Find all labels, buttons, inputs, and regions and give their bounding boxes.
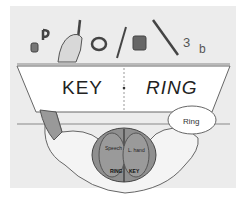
left-hemisphere-function: Speech xyxy=(105,145,122,151)
left-hemisphere-word: RING xyxy=(110,168,123,174)
objects-row: 3 b xyxy=(31,20,206,58)
letter-p-icon xyxy=(43,30,48,40)
screen-right-word: RING xyxy=(146,77,198,99)
right-hemisphere-word: KEY xyxy=(129,168,139,174)
cup-icon xyxy=(31,43,38,52)
left-arm xyxy=(40,110,62,140)
fixation-point xyxy=(123,87,126,90)
fork-icon xyxy=(117,27,126,58)
ring-icon xyxy=(92,38,106,50)
screwdriver-icon xyxy=(153,20,178,55)
right-hemisphere-function: L. hand xyxy=(128,147,145,153)
screen-left-word: KEY xyxy=(62,77,103,99)
split-brain-illustration: 3 b xyxy=(0,0,244,206)
mug-icon xyxy=(133,36,146,50)
speech-bubble-text: Ring xyxy=(183,117,199,126)
left-hand-icon xyxy=(58,34,82,62)
number-3-icon: 3 xyxy=(183,35,190,50)
letter-b-icon: b xyxy=(199,42,206,56)
